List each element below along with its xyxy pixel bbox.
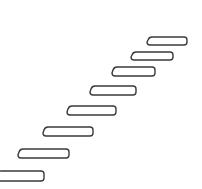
staircase-drawing xyxy=(0,0,202,189)
stair-step-7 xyxy=(18,149,69,158)
staircase-illustration xyxy=(0,0,202,189)
stair-step-2 xyxy=(131,52,173,60)
stair-step-5 xyxy=(67,106,116,115)
stair-step-1 xyxy=(147,37,187,45)
stair-step-4 xyxy=(90,86,136,95)
stair-step-3 xyxy=(112,67,155,76)
stair-step-8 xyxy=(0,171,44,181)
stair-step-6 xyxy=(43,127,93,136)
